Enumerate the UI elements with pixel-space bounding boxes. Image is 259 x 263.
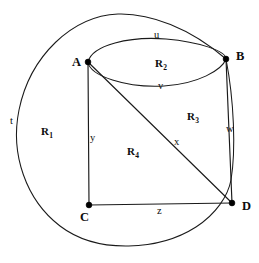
diagram-svg: [0, 0, 259, 263]
vertex-dot-C: [86, 202, 92, 208]
region-label-R2-letter: R: [155, 57, 163, 69]
edge-y-line: [88, 62, 89, 205]
region-label-R4-letter: R: [127, 145, 135, 157]
vertex-dot-A: [85, 59, 91, 65]
edge-label-v: v: [158, 81, 163, 92]
vertex-dot-B: [223, 56, 229, 62]
region-label-R3-letter: R: [187, 110, 195, 122]
region-label-R1: R1: [41, 126, 53, 137]
region-label-R4: R4: [127, 146, 139, 157]
vertex-label-D: D: [242, 200, 251, 213]
vertex-dot-D: [229, 200, 235, 206]
region-label-R2: R2: [155, 58, 167, 69]
edge-label-u: u: [154, 30, 159, 41]
vertex-label-A: A: [72, 56, 81, 69]
region-label-R3: R3: [187, 111, 199, 122]
vertex-label-C: C: [80, 211, 89, 224]
region-label-R2-sub: 2: [163, 63, 167, 72]
region-label-R3-sub: 3: [195, 116, 199, 125]
region-label-R1-sub: 1: [49, 131, 53, 140]
edge-label-w: w: [226, 124, 234, 135]
figure-canvas: A B C D u v t w x y z R1 R2 R3 R4: [0, 0, 259, 263]
vertex-label-B: B: [236, 50, 244, 63]
edge-label-y: y: [90, 133, 95, 144]
edge-label-t: t: [10, 116, 13, 127]
region-label-R4-sub: 4: [135, 151, 139, 160]
edge-label-z: z: [157, 206, 162, 217]
region-label-R1-letter: R: [41, 125, 49, 137]
edge-label-x: x: [174, 137, 179, 148]
